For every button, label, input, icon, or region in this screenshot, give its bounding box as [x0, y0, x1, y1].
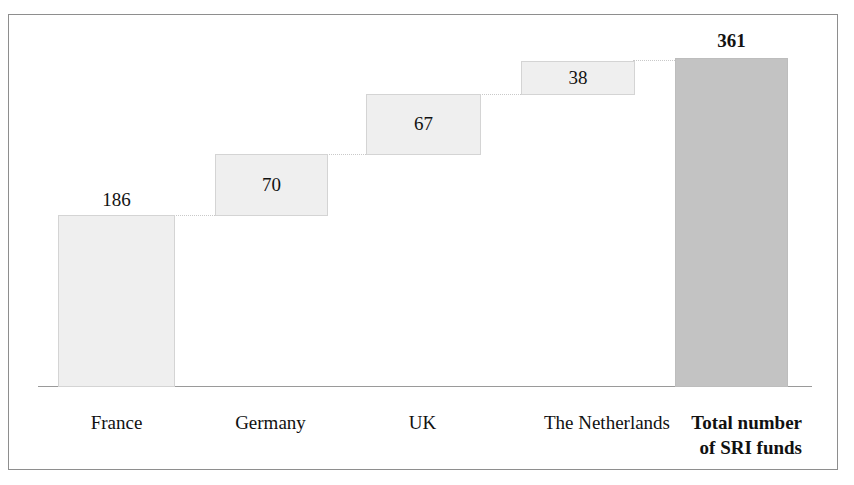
connector-germany-uk [326, 154, 368, 156]
category-label-germany: Germany [212, 411, 329, 434]
bar-value-uk: 67 [366, 114, 481, 133]
category-label-france: France [60, 411, 173, 434]
category-label-netherlands: The Netherlands [486, 411, 670, 434]
plot-area: 186 70 67 38 361 France Germany UK The N… [0, 0, 854, 485]
connector-uk-netherlands [479, 94, 523, 96]
category-label-total-line2: of SRI funds [650, 436, 802, 459]
bar-value-france: 186 [58, 190, 175, 209]
bar-value-germany: 70 [215, 175, 328, 194]
category-label-total-line1: Total number [650, 411, 802, 434]
bar-france[interactable] [58, 215, 175, 387]
bar-total[interactable] [675, 58, 788, 387]
bar-value-netherlands: 38 [521, 68, 635, 87]
category-label-uk: UK [365, 411, 480, 434]
connector-france-germany [173, 215, 217, 217]
waterfall-chart-figure: 186 70 67 38 361 France Germany UK The N… [0, 0, 854, 485]
connector-netherlands-total [633, 60, 677, 62]
bar-value-total: 361 [675, 31, 788, 50]
